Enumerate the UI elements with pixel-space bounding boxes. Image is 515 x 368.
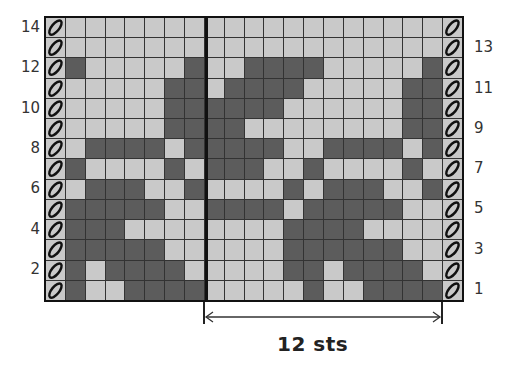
light-stitch-cell	[384, 38, 403, 57]
edge-stitch-icon	[443, 79, 462, 98]
dark-stitch-cell	[364, 261, 383, 280]
light-stitch-cell	[86, 38, 105, 57]
light-stitch-cell	[284, 159, 303, 178]
dark-stitch-cell	[145, 200, 164, 219]
dark-stitch-cell	[125, 261, 144, 280]
dark-stitch-cell	[86, 180, 105, 199]
dark-stitch-cell	[423, 180, 442, 199]
light-stitch-cell	[125, 79, 144, 98]
edge-stitch-icon	[443, 281, 462, 300]
light-stitch-cell	[284, 281, 303, 300]
light-stitch-cell	[165, 58, 184, 77]
light-stitch-cell	[106, 159, 125, 178]
edge-stitch-icon	[443, 58, 462, 77]
light-stitch-cell	[403, 18, 422, 37]
edge-stitch-cell	[443, 220, 462, 239]
light-stitch-cell	[304, 99, 323, 118]
light-stitch-cell	[225, 220, 244, 239]
dark-stitch-cell	[245, 159, 264, 178]
light-stitch-cell	[86, 261, 105, 280]
dark-stitch-cell	[66, 220, 85, 239]
dark-stitch-cell	[66, 200, 85, 219]
dark-stitch-cell	[304, 240, 323, 259]
dark-stitch-cell	[165, 159, 184, 178]
dark-stitch-cell	[324, 220, 343, 239]
dark-stitch-cell	[384, 200, 403, 219]
dark-stitch-cell	[66, 240, 85, 259]
light-stitch-cell	[145, 180, 164, 199]
light-stitch-cell	[364, 220, 383, 239]
edge-stitch-icon	[443, 38, 462, 57]
dark-stitch-cell	[264, 139, 283, 158]
light-stitch-cell	[225, 281, 244, 300]
light-stitch-cell	[245, 220, 264, 239]
dark-stitch-cell	[225, 159, 244, 178]
edge-stitch-icon	[46, 79, 65, 98]
edge-stitch-cell	[46, 139, 65, 158]
edge-stitch-icon	[46, 18, 65, 37]
dark-stitch-cell	[423, 58, 442, 77]
dark-stitch-cell	[423, 99, 442, 118]
dark-stitch-cell	[66, 261, 85, 280]
dark-stitch-cell	[225, 200, 244, 219]
dark-stitch-cell	[125, 200, 144, 219]
light-stitch-cell	[225, 18, 244, 37]
left-row-label: 10	[14, 99, 40, 117]
dark-stitch-cell	[304, 261, 323, 280]
light-stitch-cell	[106, 281, 125, 300]
light-stitch-cell	[225, 240, 244, 259]
light-stitch-cell	[264, 159, 283, 178]
light-stitch-cell	[403, 139, 422, 158]
dark-stitch-cell	[384, 240, 403, 259]
dark-stitch-cell	[403, 281, 422, 300]
edge-stitch-cell	[443, 240, 462, 259]
dark-stitch-cell	[125, 139, 144, 158]
dark-stitch-cell	[185, 58, 204, 77]
light-stitch-cell	[264, 261, 283, 280]
light-stitch-cell	[106, 79, 125, 98]
light-stitch-cell	[125, 220, 144, 239]
dark-stitch-cell	[106, 261, 125, 280]
dark-stitch-cell	[344, 261, 363, 280]
edge-stitch-icon	[46, 200, 65, 219]
light-stitch-cell	[86, 18, 105, 37]
light-stitch-cell	[284, 139, 303, 158]
light-stitch-cell	[324, 99, 343, 118]
light-stitch-cell	[145, 58, 164, 77]
dark-stitch-cell	[106, 240, 125, 259]
right-row-label: 13	[474, 38, 502, 56]
light-stitch-cell	[125, 18, 144, 37]
light-stitch-cell	[125, 159, 144, 178]
edge-stitch-cell	[443, 119, 462, 138]
dark-stitch-cell	[284, 58, 303, 77]
edge-stitch-icon	[443, 200, 462, 219]
edge-stitch-icon	[46, 281, 65, 300]
light-stitch-cell	[324, 38, 343, 57]
light-stitch-cell	[245, 119, 264, 138]
dark-stitch-cell	[86, 240, 105, 259]
edge-stitch-cell	[443, 281, 462, 300]
light-stitch-cell	[245, 38, 264, 57]
dark-stitch-cell	[403, 261, 422, 280]
light-stitch-cell	[264, 240, 283, 259]
edge-stitch-cell	[443, 261, 462, 280]
dark-stitch-cell	[225, 119, 244, 138]
edge-stitch-cell	[46, 159, 65, 178]
light-stitch-cell	[403, 38, 422, 57]
left-row-label: 14	[14, 18, 40, 36]
dark-stitch-cell	[245, 200, 264, 219]
light-stitch-cell	[106, 99, 125, 118]
right-row-label: 3	[474, 240, 502, 258]
dark-stitch-cell	[145, 240, 164, 259]
dark-stitch-cell	[304, 58, 323, 77]
light-stitch-cell	[384, 220, 403, 239]
light-stitch-cell	[264, 180, 283, 199]
left-row-label: 8	[14, 139, 40, 157]
right-row-label: 5	[474, 199, 502, 217]
dark-stitch-cell	[364, 200, 383, 219]
light-stitch-cell	[106, 119, 125, 138]
left-row-label: 2	[14, 260, 40, 278]
light-stitch-cell	[364, 58, 383, 77]
light-stitch-cell	[185, 220, 204, 239]
edge-stitch-cell	[443, 79, 462, 98]
